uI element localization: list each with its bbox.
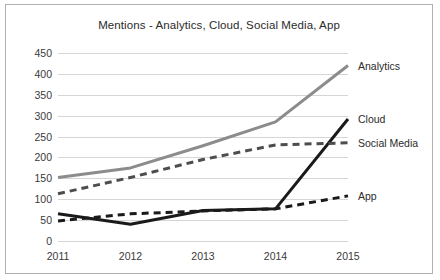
y-tick-label: 450 <box>34 47 52 59</box>
x-tick-label: 2012 <box>119 250 142 262</box>
series-lines <box>58 53 348 241</box>
y-tick-label: 400 <box>34 68 52 80</box>
y-tick-label: 100 <box>34 193 52 205</box>
gridline <box>58 241 348 242</box>
plot-area: 050100150200250300350400450 201120122013… <box>58 53 348 241</box>
series-label-app: App <box>358 190 377 202</box>
series-line-app <box>58 196 348 221</box>
y-tick-label: 50 <box>40 214 52 226</box>
y-tick-label: 350 <box>34 89 52 101</box>
series-label-social-media: Social Media <box>358 137 418 149</box>
x-tick-label: 2011 <box>47 250 70 262</box>
y-tick-label: 200 <box>34 151 52 163</box>
y-tick-label: 250 <box>34 131 52 143</box>
chart-frame: Mentions - Analytics, Cloud, Social Medi… <box>5 4 433 274</box>
y-tick-label: 0 <box>46 235 52 247</box>
x-tick-label: 2014 <box>264 250 287 262</box>
chart-title: Mentions - Analytics, Cloud, Social Medi… <box>6 19 432 31</box>
series-label-analytics: Analytics <box>358 60 400 72</box>
x-tick-label: 2013 <box>191 250 214 262</box>
x-tick-label: 2015 <box>336 250 359 262</box>
y-tick-label: 300 <box>34 110 52 122</box>
series-label-cloud: Cloud <box>358 113 385 125</box>
series-line-social-media <box>58 143 348 194</box>
y-tick-label: 150 <box>34 172 52 184</box>
